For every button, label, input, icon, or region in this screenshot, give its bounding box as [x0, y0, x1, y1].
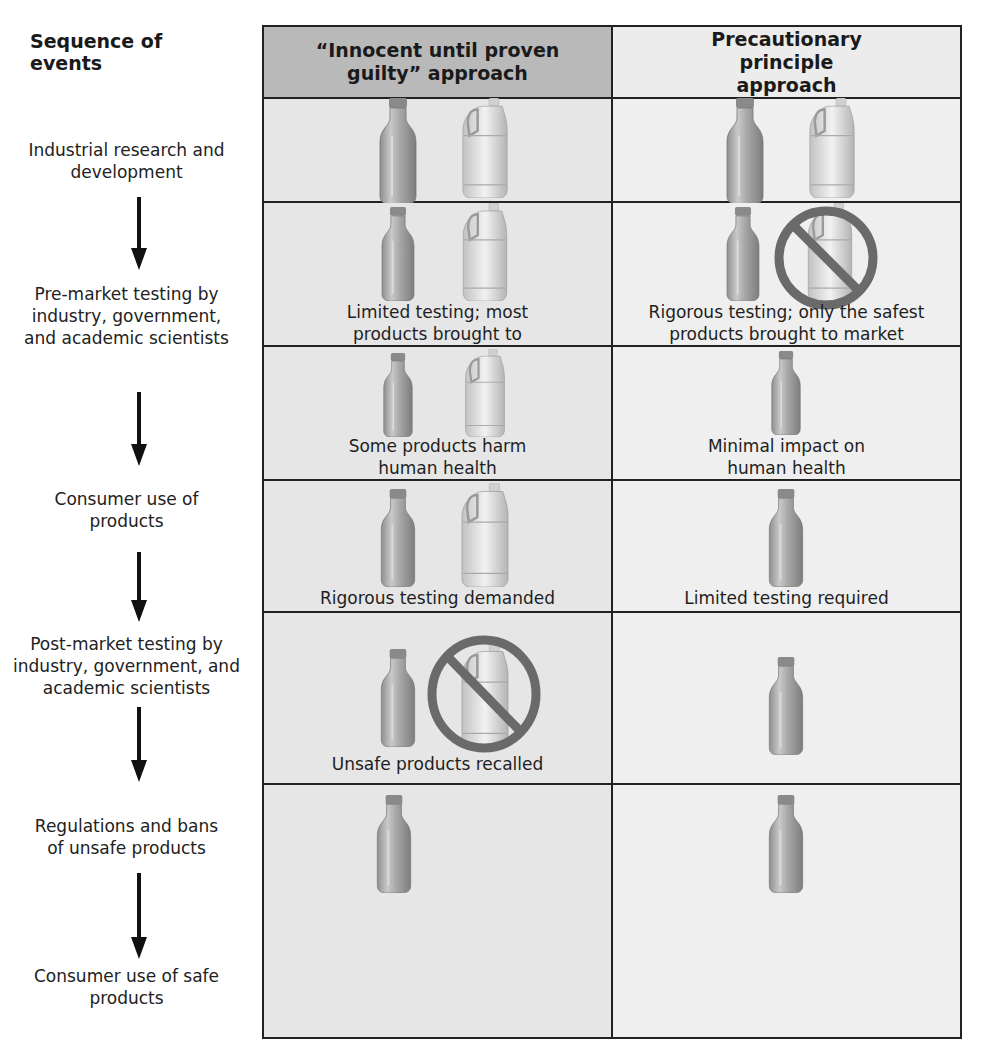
comparison-table: “Innocent until proven guilty” approach …: [262, 25, 962, 1039]
step-research: Industrial research and development: [0, 139, 253, 183]
bottle-icon: [723, 207, 763, 301]
cell-precautionary-research: [613, 99, 960, 203]
bottle-icon: [766, 795, 806, 893]
cell-precautionary-regulations: [613, 613, 960, 785]
jug-icon: [456, 98, 514, 198]
arrow-down-icon: [131, 552, 147, 622]
bottle-icon: [766, 489, 806, 587]
cell-precautionary-premarket: Rigorous testing; only the safest produc…: [613, 203, 960, 347]
bottle-icon: [378, 353, 418, 437]
prohibited-icon: [426, 635, 542, 753]
cell-innocent-safe-use: [264, 785, 613, 1037]
caption: Rigorous testing; only the safest produc…: [613, 301, 960, 345]
step-consumer-safe-use: Consumer use of safe products: [0, 965, 253, 1009]
jug-icon: [456, 349, 514, 437]
jug-icon: [803, 98, 861, 198]
bottle-icon: [378, 489, 418, 587]
jug-icon: [456, 483, 514, 587]
sequence-title: Sequence of events: [30, 30, 240, 74]
column-header-precautionary: Precautionary principle approach: [613, 27, 960, 99]
step-postmarket-testing: Post-market testing by industry, governm…: [0, 633, 253, 699]
arrow-down-icon: [131, 392, 147, 466]
bottle-icon: [374, 795, 414, 893]
column-header-innocent: “Innocent until proven guilty” approach: [264, 27, 613, 99]
cell-precautionary-safe-use: [613, 785, 960, 1037]
bottle-icon: [378, 98, 418, 204]
cell-innocent-premarket: Limited testing; most products brought t…: [264, 203, 613, 347]
cell-innocent-postmarket: Rigorous testing demanded: [264, 481, 613, 613]
bottle-icon: [766, 351, 806, 435]
caption: Limited testing required: [613, 587, 960, 609]
arrow-down-icon: [131, 707, 147, 782]
caption: Some products harm human health: [264, 435, 611, 479]
cell-innocent-regulations: Unsafe products recalled: [264, 613, 613, 785]
jug-icon: [456, 203, 514, 301]
caption: Minimal impact on human health: [613, 435, 960, 479]
caption: Rigorous testing demanded: [264, 587, 611, 609]
bottle-icon: [766, 657, 806, 755]
bottle-icon: [725, 98, 765, 204]
arrow-down-icon: [131, 873, 147, 959]
step-consumer-use: Consumer use of products: [0, 488, 253, 532]
cell-innocent-research: [264, 99, 613, 203]
arrow-down-icon: [131, 197, 147, 270]
cell-precautionary-consumer-use: Minimal impact on human health: [613, 347, 960, 481]
bottle-icon: [378, 207, 418, 301]
prohibited-icon: [773, 205, 879, 311]
caption: Unsafe products recalled: [264, 753, 611, 775]
step-regulations-bans: Regulations and bans of unsafe products: [0, 815, 253, 859]
bottle-icon: [378, 649, 418, 747]
step-premarket-testing: Pre-market testing by industry, governme…: [0, 283, 253, 349]
cell-innocent-consumer-use: Some products harm human health: [264, 347, 613, 481]
cell-precautionary-postmarket: Limited testing required: [613, 481, 960, 613]
